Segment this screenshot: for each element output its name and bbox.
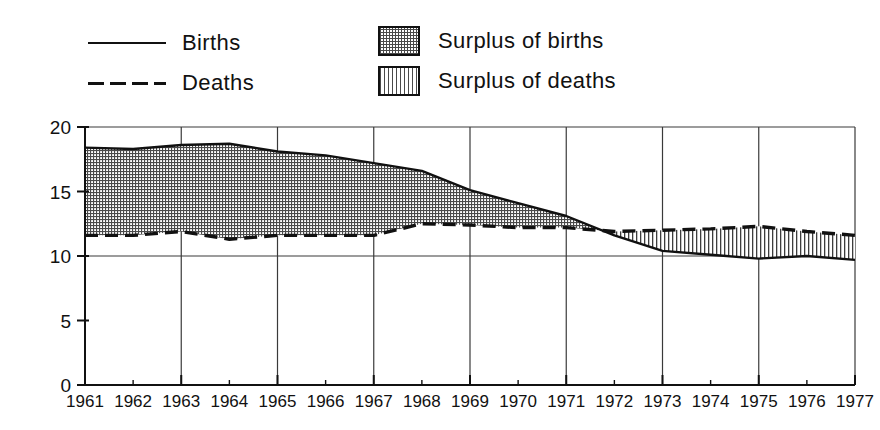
birth-death-rate-chart: Births Deaths Surplus of births Surplus … (0, 0, 880, 430)
x-tick-label-1973: 1973 (644, 392, 682, 411)
y-tick-label-5: 5 (60, 311, 71, 332)
plot-area: 0510152019611962196319641965196619671968… (0, 0, 880, 430)
y-tick-label-15: 15 (50, 182, 71, 203)
x-tick-label-1970: 1970 (499, 392, 537, 411)
x-tick-label-1964: 1964 (210, 392, 248, 411)
x-tick-label-1962: 1962 (114, 392, 152, 411)
chart-svg: 0510152019611962196319641965196619671968… (0, 0, 880, 430)
y-tick-label-20: 20 (50, 117, 71, 138)
x-tick-label-1965: 1965 (259, 392, 297, 411)
x-tick-label-1975: 1975 (740, 392, 778, 411)
x-tick-label-1969: 1969 (451, 392, 489, 411)
x-tick-label-1976: 1976 (788, 392, 826, 411)
x-tick-label-1968: 1968 (403, 392, 441, 411)
x-tick-label-1977: 1977 (836, 392, 874, 411)
y-tick-label-10: 10 (50, 246, 71, 267)
x-tick-label-1967: 1967 (355, 392, 393, 411)
x-tick-label-1971: 1971 (547, 392, 585, 411)
x-tick-label-1974: 1974 (692, 392, 730, 411)
x-tick-label-1961: 1961 (66, 392, 104, 411)
x-tick-label-1972: 1972 (595, 392, 633, 411)
x-tick-label-1966: 1966 (307, 392, 345, 411)
x-tick-label-1963: 1963 (162, 392, 200, 411)
